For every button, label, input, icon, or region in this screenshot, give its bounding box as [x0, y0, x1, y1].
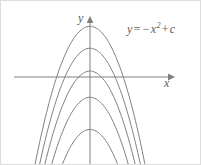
- axes-group: [14, 16, 175, 165]
- equation-y-term: y: [127, 22, 133, 36]
- equation-minus-sign: −: [142, 22, 151, 36]
- equation-c-term: c: [170, 22, 176, 36]
- x-axis-label: x: [164, 76, 169, 91]
- parabola-family-figure: y=−x2+c y x: [0, 0, 201, 165]
- equation-equals-sign: =: [133, 22, 142, 36]
- y-axis-arrowhead: [87, 16, 94, 23]
- equation-plus-sign: +: [161, 22, 170, 36]
- y-axis-label: y: [78, 11, 83, 26]
- equation-label: y=−x2+c: [127, 22, 175, 37]
